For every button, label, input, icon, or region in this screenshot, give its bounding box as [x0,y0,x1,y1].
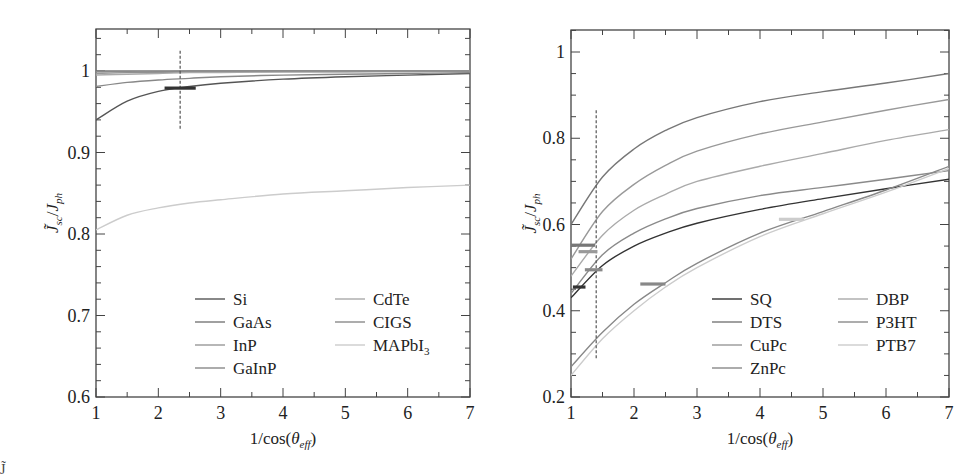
y-tick-label: 0.2 [543,387,566,407]
x-tick-label: 1 [567,403,576,423]
x-tick-label: 3 [216,403,225,423]
legend-label: ZnPc [750,359,786,378]
y-tick-label: 0.6 [68,387,91,407]
y-tick-label: 0.7 [68,306,91,326]
series-line-cupc [571,99,949,259]
series-line-dbp [571,130,949,277]
legend-item-mapbi3: MAPbI3 [335,336,430,357]
x-axis-title: 1/cos(θeff) [250,429,317,450]
figure: 12345670.60.70.80.911/cos(θeff)J̃sc/JphS… [0,0,975,474]
legend-item-si: Si [195,290,247,309]
legend-label: GaAs [233,313,272,332]
legend-item-inp: InP [195,336,257,355]
x-tick-label: 6 [403,403,412,423]
x-tick-label: 1 [92,403,101,423]
y-tick-label: 1 [81,61,90,81]
legend-item-gaas: GaAs [195,313,272,332]
legend-item-dts: DTS [712,313,782,332]
legend-label: CuPc [750,336,787,355]
x-tick-label: 6 [882,403,891,423]
legend-item-ptb7: PTB7 [838,336,916,355]
x-tick-label: 5 [341,403,350,423]
legend-label: CdTe [373,290,410,309]
legend-label: PTB7 [876,336,916,355]
right-panel-chart: 12345670.20.40.60.811/cos(θeff)J̃sc/JphS… [521,30,954,450]
y-axis-title: J̃sc/Jph [521,193,542,234]
legend-label: P3HT [876,313,917,332]
x-tick-label: 2 [154,403,163,423]
series-line-sq [571,179,949,298]
legend-item-gainp: GaInP [195,359,276,378]
legend-label: CIGS [373,313,412,332]
x-tick-label: 3 [693,403,702,423]
legend-label: MAPbI3 [373,336,430,357]
y-tick-label: 1 [556,42,565,62]
y-tick-label: 0.9 [68,143,91,163]
y-tick-label: 0.4 [543,301,566,321]
legend-item-cdte: CdTe [335,290,410,309]
x-axis-title: 1/cos(θeff) [727,429,794,450]
legend-item-cupc: CuPc [712,336,787,355]
y-tick-label: 0.8 [68,224,91,244]
left-panel-chart: 12345670.60.70.80.911/cos(θeff)J̃sc/JphS… [43,29,475,450]
x-tick-label: 4 [279,403,288,423]
x-tick-label: 7 [466,403,475,423]
x-tick-label: 2 [630,403,639,423]
y-tick-label: 0.8 [543,128,566,148]
legend-item-znpc: ZnPc [712,359,786,378]
y-tick-label: 0.6 [543,215,566,235]
x-tick-label: 4 [756,403,765,423]
figure-caption-partial: J̃ [0,462,5,474]
legend-label: DBP [876,290,909,309]
legend-item-sq: SQ [712,290,772,309]
y-axis-title: J̃sc/Jph [43,193,64,234]
legend-item-dbp: DBP [838,290,909,309]
series-line-mapbi3 [96,185,470,230]
legend-item-cigs: CIGS [335,313,412,332]
series-line-dts [571,74,949,225]
legend-item-p3ht: P3HT [838,313,917,332]
legend-label: GaInP [233,359,276,378]
legend-label: DTS [750,313,782,332]
legend-label: SQ [750,290,772,309]
legend-label: Si [233,290,247,309]
x-tick-label: 5 [819,403,828,423]
legend-label: InP [233,336,257,355]
x-tick-label: 7 [945,403,954,423]
